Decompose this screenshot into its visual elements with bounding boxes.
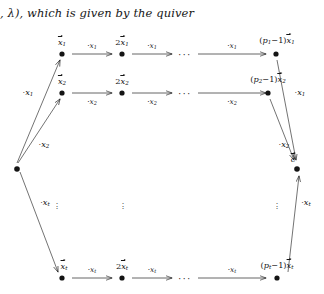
node-label-row2-1: x2: [58, 77, 66, 87]
arrow-label-row1-1: ·x1: [87, 42, 97, 50]
node-label-rowt-last: (pt−1)xt: [261, 261, 294, 271]
node-label-rowt-2: 2xt: [116, 262, 128, 272]
arrow-label-row2-1: ·x2: [87, 98, 97, 106]
node-row2-last: [265, 90, 270, 95]
arrow-label-row2-2: ·x2: [147, 98, 157, 106]
edge-label-right-1: ·x1: [295, 88, 306, 98]
page-root: , λ), which is given by the quiver: [0, 0, 324, 294]
node-row2-2: [119, 90, 124, 95]
arrow-label-row2-3: ·x2: [227, 98, 237, 106]
arrow-label-rowt-2: ·xt: [148, 266, 157, 274]
node-label-row1-last: (p1−1)x1: [259, 36, 294, 46]
vertical-ellipsis-left: ...: [56, 201, 59, 209]
arrow-label-rowt-3: ·xt: [228, 266, 237, 274]
node-row1-last: [273, 51, 278, 56]
node-label-row2-2: 2x2: [115, 77, 128, 87]
node-label-row2-last: (p2−1)x2: [250, 75, 285, 85]
node-label-row1-1: x1: [58, 38, 66, 48]
edge-label-right-2: ·x2: [279, 140, 290, 150]
vertical-ellipsis-right: ...: [276, 201, 279, 209]
arrow-label-row1-3: ·x1: [227, 42, 237, 50]
row1-horizontal-ellipsis: ···: [178, 50, 191, 60]
node-label-rowt-1: xt: [61, 262, 68, 272]
node-label-sink: c: [291, 155, 296, 163]
edge-label-left-1: ·x1: [23, 88, 34, 98]
node-row1-1: [59, 51, 64, 56]
edge-label-right-t: ·xt: [301, 198, 310, 208]
edge-label-left-t: ·xt: [40, 198, 49, 208]
node-rowt-1: [59, 275, 64, 280]
node-rowt-last: [274, 275, 279, 280]
node-row1-2: [119, 51, 124, 56]
arrow-label-row1-2: ·x1: [147, 42, 157, 50]
vertical-ellipsis-center: ...: [122, 201, 125, 209]
arrow-label-rowt-1: ·xt: [88, 266, 97, 274]
row2-horizontal-ellipsis: ···: [178, 89, 191, 99]
node-rowt-2: [119, 275, 124, 280]
rowt-horizontal-ellipsis: ···: [178, 274, 191, 284]
node-sink: [294, 166, 300, 172]
edge-label-left-2: ·x2: [39, 140, 50, 150]
node-row2-1: [59, 90, 64, 95]
node-label-row1-2: 2x1: [115, 38, 128, 48]
node-source: [14, 166, 20, 172]
